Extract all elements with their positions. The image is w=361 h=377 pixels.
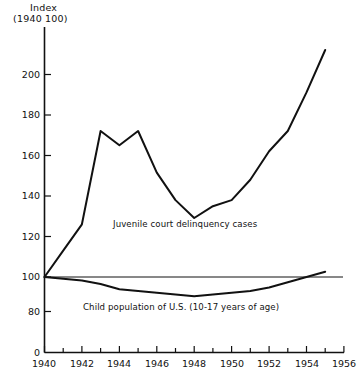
y-tick-label-100: 100 — [14, 271, 40, 282]
series-annotation-child-population: Child population of U.S. (10-17 years of… — [83, 302, 279, 312]
y-tick-label-0: 0 — [14, 347, 40, 358]
x-tick-label-1954: 1954 — [290, 358, 324, 369]
series-line-juvenile-delinquency — [45, 50, 326, 277]
y-tick-label-140: 140 — [14, 190, 40, 201]
x-tick-label-1952: 1952 — [252, 358, 286, 369]
y-tick-label-120: 120 — [14, 231, 40, 242]
series-line-child-population — [45, 272, 326, 296]
y-tick-label-160: 160 — [14, 150, 40, 161]
x-tick-label-1956: 1956 — [327, 358, 361, 369]
series-annotation-juvenile-delinquency: Juvenile court delinquency cases — [113, 219, 257, 229]
y-tick-label-180: 180 — [14, 109, 40, 120]
x-tick-label-1944: 1944 — [102, 358, 136, 369]
x-tick-label-1942: 1942 — [65, 358, 99, 369]
x-tick-label-1940: 1940 — [27, 358, 61, 369]
y-tick-label-200: 200 — [14, 69, 40, 80]
x-tick-label-1948: 1948 — [177, 358, 211, 369]
x-tick-label-1946: 1946 — [140, 358, 174, 369]
y-tick-label-80: 80 — [14, 306, 40, 317]
x-axis-ticks — [45, 346, 344, 353]
x-tick-label-1950: 1950 — [215, 358, 249, 369]
